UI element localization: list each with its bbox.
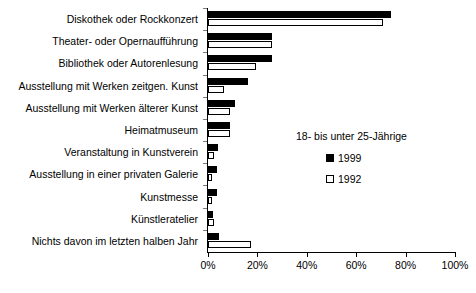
legend-title: 18- bis unter 25-Jährige bbox=[296, 130, 436, 143]
category-label: Kunstmesse bbox=[0, 191, 198, 203]
category-axis: Diskothek oder RockkonzertTheater- oder … bbox=[0, 8, 204, 252]
x-axis-tick bbox=[406, 253, 407, 257]
bar-1992 bbox=[208, 197, 212, 204]
bar-group bbox=[208, 78, 455, 100]
x-axis-tick bbox=[307, 253, 308, 257]
bar-1999 bbox=[208, 11, 391, 18]
y-axis-tick bbox=[203, 30, 207, 31]
bar-1999 bbox=[208, 211, 213, 218]
y-axis-tick bbox=[203, 97, 207, 98]
y-axis-tick bbox=[203, 185, 207, 186]
legend-swatch-hollow-icon bbox=[326, 175, 334, 183]
x-axis-tick-label: 100% bbox=[435, 259, 475, 272]
x-axis-tick bbox=[208, 253, 209, 257]
category-label: Veranstaltung in Kunstverein bbox=[0, 146, 198, 158]
bar-group bbox=[208, 55, 455, 77]
bar-1999 bbox=[208, 55, 272, 62]
category-label: Ausstellung in einer privaten Galerie bbox=[0, 168, 198, 180]
bar-1992 bbox=[208, 108, 230, 115]
x-axis-tick bbox=[455, 253, 456, 257]
y-axis-tick bbox=[203, 163, 207, 164]
y-axis-tick bbox=[203, 208, 207, 209]
x-axis-tick-label: 20% bbox=[237, 259, 277, 272]
bar-1999 bbox=[208, 122, 230, 129]
x-axis-line bbox=[207, 252, 456, 253]
bar-1999 bbox=[208, 33, 272, 40]
y-axis-tick bbox=[203, 119, 207, 120]
bar-1999 bbox=[208, 233, 219, 240]
bar-1992 bbox=[208, 63, 256, 70]
bar-1999 bbox=[208, 78, 248, 85]
bar-group bbox=[208, 211, 455, 233]
y-axis-tick bbox=[203, 52, 207, 53]
bar-1992 bbox=[208, 86, 224, 93]
category-label: Heimatmuseum bbox=[0, 124, 198, 136]
category-label: Ausstellung mit Werken älterer Kunst bbox=[0, 102, 198, 114]
x-axis-tick-label: 0% bbox=[188, 259, 228, 272]
bar-1992 bbox=[208, 219, 214, 226]
legend-label-1999: 1999 bbox=[338, 152, 361, 164]
bar-1992 bbox=[208, 130, 230, 137]
y-axis-tick bbox=[203, 8, 207, 9]
category-label: Ausstellung mit Werken zeitgen. Kunst bbox=[0, 80, 198, 92]
bar-1992 bbox=[208, 174, 212, 181]
bar-chart: Diskothek oder RockkonzertTheater- oder … bbox=[0, 0, 476, 293]
y-axis-line bbox=[207, 8, 208, 252]
bar-group bbox=[208, 11, 455, 33]
y-axis-tick bbox=[203, 230, 207, 231]
bar-1992 bbox=[208, 19, 383, 26]
x-axis-tick-label: 60% bbox=[336, 259, 376, 272]
bar-1992 bbox=[208, 152, 214, 159]
x-axis-tick bbox=[257, 253, 258, 257]
y-axis-tick bbox=[203, 75, 207, 76]
x-axis-tick-label: 40% bbox=[287, 259, 327, 272]
category-label: Theater- oder Opernaufführung bbox=[0, 35, 198, 47]
bar-group bbox=[208, 100, 455, 122]
chart-legend: 18- bis unter 25-Jährige 1999 1992 bbox=[296, 130, 436, 194]
bar-1999 bbox=[208, 144, 218, 151]
bar-1992 bbox=[208, 41, 272, 48]
bar-1999 bbox=[208, 100, 235, 107]
category-label: Bibliothek oder Autorenlesung bbox=[0, 57, 198, 69]
legend-item-1992: 1992 bbox=[326, 173, 436, 185]
bar-group bbox=[208, 33, 455, 55]
bar-1992 bbox=[208, 241, 251, 248]
legend-item-1999: 1999 bbox=[326, 152, 436, 164]
x-axis-tick bbox=[356, 253, 357, 257]
bar-1999 bbox=[208, 189, 217, 196]
bar-1999 bbox=[208, 166, 217, 173]
legend-swatch-filled-icon bbox=[326, 154, 334, 162]
legend-label-1992: 1992 bbox=[338, 173, 361, 185]
category-label: Diskothek oder Rockkonzert bbox=[0, 13, 198, 25]
category-label: Nichts davon im letzten halben Jahr bbox=[0, 235, 198, 247]
category-label: Künstleratelier bbox=[0, 213, 198, 225]
x-axis-tick-label: 80% bbox=[386, 259, 426, 272]
y-axis-tick bbox=[203, 141, 207, 142]
